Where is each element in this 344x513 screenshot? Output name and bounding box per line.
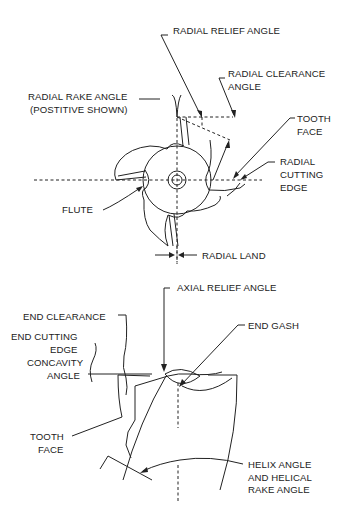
- label-axial-relief-angle: AXIAL RELIEF ANGLE: [177, 282, 277, 293]
- arrowhead-icon: [136, 186, 143, 192]
- end-left-step: [118, 375, 150, 376]
- arrowhead-icon: [169, 252, 175, 258]
- radial-relief-leader: [161, 35, 200, 114]
- label-tooth-face-axial-2: FACE: [38, 444, 63, 455]
- axial-relief-leader: [164, 288, 170, 368]
- label-tooth-face-top-2: FACE: [297, 126, 322, 137]
- end-clearance-bracket: [118, 315, 127, 395]
- label-flute: FLUTE: [62, 204, 93, 215]
- arrowhead-icon: [178, 252, 184, 258]
- label-radial-cutting-edge-2: CUTTING: [280, 169, 323, 180]
- label-radial-cutting-edge-3: EDGE: [280, 182, 308, 193]
- label-tooth-face-top: TOOTH: [297, 113, 331, 124]
- arrowhead-icon: [231, 110, 236, 118]
- label-radial-relief-angle: RADIAL RELIEF ANGLE: [173, 25, 280, 36]
- flute-gullet-right: [206, 172, 209, 190]
- tooth-bottom: [187, 196, 220, 211]
- label-end-gash: END GASH: [248, 320, 299, 331]
- arrowhead-icon: [140, 467, 148, 473]
- label-radial-rake-angle-2: (POSTITIVE SHOWN): [30, 104, 128, 115]
- arrowhead-icon: [225, 140, 230, 148]
- helix-angle-arc: [143, 458, 243, 471]
- concavity-bracket: [90, 343, 96, 382]
- label-end-cutting-edge-2: EDGE: [50, 344, 78, 355]
- arrowhead-icon: [161, 364, 167, 372]
- label-helix-angle-2: AND HELICAL: [248, 472, 313, 483]
- label-end-cutting-edge-4: ANGLE: [47, 370, 80, 381]
- label-radial-clearance-angle-2: ANGLE: [228, 81, 261, 92]
- radial-view: RADIAL RELIEF ANGLE RADIAL CLEARANCE ANG…: [28, 25, 331, 264]
- label-radial-land: RADIAL LAND: [202, 250, 266, 261]
- tooth-face-arrow: [213, 143, 228, 180]
- flute-leader: [103, 188, 140, 210]
- tooth-right-back: [209, 184, 245, 191]
- body-right-edge: [220, 375, 237, 490]
- body-left-edge: [118, 375, 122, 417]
- arrowhead-icon: [240, 174, 247, 180]
- label-end-cutting-edge: END CUTTING: [11, 331, 78, 342]
- label-helix-angle-3: RAKE ANGLE: [248, 484, 310, 495]
- tooth-face-leader-axial: [72, 417, 122, 436]
- radial-cutting-edge-leader: [243, 162, 275, 178]
- label-helix-angle: HELIX ANGLE: [248, 459, 312, 470]
- helix-angle-symbol: [100, 456, 152, 480]
- end-mill-geometry-diagram: RADIAL RELIEF ANGLE RADIAL CLEARANCE ANG…: [0, 0, 344, 513]
- flute-gullet-left: [145, 170, 149, 188]
- label-radial-cutting-edge: RADIAL: [280, 156, 316, 167]
- radial-rake-angle-symbol: [172, 95, 181, 117]
- label-end-cutting-edge-3: CONCAVITY: [27, 357, 84, 368]
- label-radial-rake-angle: RADIAL RAKE ANGLE: [28, 91, 127, 102]
- label-end-clearance: END CLEARANCE: [23, 311, 106, 322]
- axial-view: AXIAL RELIEF ANGLE END CLEARANCE END GAS…: [11, 282, 313, 502]
- label-tooth-face-axial: TOOTH: [30, 431, 64, 442]
- end-gash-leader: [181, 325, 245, 385]
- label-radial-clearance-angle: RADIAL CLEARANCE: [228, 68, 325, 79]
- radial-relief-line: [177, 117, 230, 140]
- tooth-top-land: [118, 171, 145, 176]
- end-gash-curve: [182, 378, 232, 391]
